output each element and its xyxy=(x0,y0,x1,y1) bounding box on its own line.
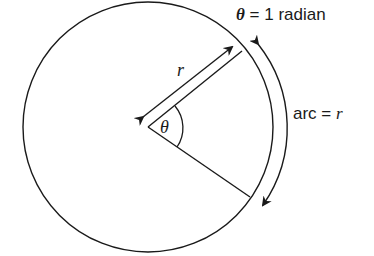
equals-one-radian-text: = 1 radian xyxy=(245,5,326,24)
arc-equals-r-label: arc = r xyxy=(293,104,343,124)
radius-length-arrow xyxy=(143,47,232,117)
radius-label: r xyxy=(177,60,184,81)
radius-line-upper xyxy=(148,51,242,127)
theta-symbol: θ xyxy=(236,5,245,24)
arc-value: r xyxy=(336,104,343,123)
arc-prefix: arc = xyxy=(293,104,336,123)
theta-equals-one-radian-label: θ = 1 radian xyxy=(236,5,326,25)
angle-label: θ xyxy=(160,117,169,138)
radian-diagram xyxy=(0,0,374,256)
angle-arc xyxy=(175,106,183,147)
